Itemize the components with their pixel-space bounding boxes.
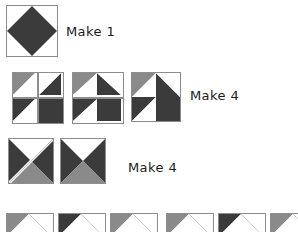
diamond-shape bbox=[7, 6, 57, 56]
hst-piece-top-right bbox=[38, 72, 64, 98]
flying-geese-unit bbox=[58, 213, 106, 232]
flying-geese-unit bbox=[218, 213, 266, 232]
label-make-1: Make 1 bbox=[66, 24, 115, 39]
hst-row-bottom bbox=[72, 98, 124, 124]
quarter-square-triangle-unit bbox=[60, 138, 106, 184]
hst-row-top bbox=[72, 72, 124, 98]
label-make-4-row3: Make 4 bbox=[128, 160, 177, 175]
hst-piece-bottom-left bbox=[12, 98, 38, 124]
solid-piece-bottom-right bbox=[38, 98, 64, 124]
quilt-diagram-canvas: Make 1 bbox=[0, 0, 298, 232]
quarter-square-triangle-pieces bbox=[8, 138, 54, 184]
square-in-square-unit bbox=[6, 5, 58, 57]
flying-geese-unit bbox=[6, 213, 54, 232]
flying-geese-unit bbox=[270, 213, 298, 232]
flying-geese-unit bbox=[110, 213, 158, 232]
hst-piece-top-left bbox=[12, 72, 38, 98]
four-patch-complete-unit bbox=[131, 72, 181, 122]
flying-geese-unit bbox=[166, 213, 214, 232]
label-make-4-row2: Make 4 bbox=[190, 88, 239, 103]
